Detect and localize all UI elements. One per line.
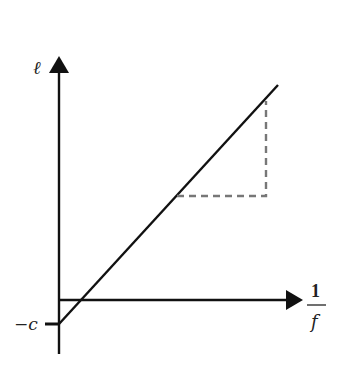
x-axis-arrowhead-icon bbox=[286, 290, 303, 310]
x-axis-label-denominator: f bbox=[309, 311, 321, 332]
y-axis-label: ℓ bbox=[33, 57, 41, 78]
data-line bbox=[59, 85, 278, 324]
x-axis-label-numerator: 1 bbox=[311, 281, 320, 301]
graph: ℓ −c 1 f bbox=[0, 0, 345, 371]
intercept-label: −c bbox=[14, 314, 38, 334]
y-axis-arrowhead-icon bbox=[49, 56, 69, 73]
